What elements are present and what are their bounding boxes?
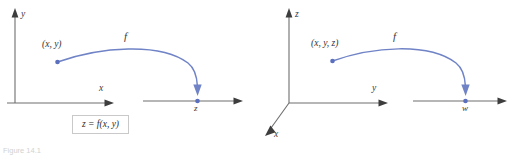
three-variable-diagram-graphics: [260, 0, 521, 156]
w-axis-label: w: [462, 104, 468, 113]
figure-number-label: Figure 14.1: [3, 147, 41, 155]
caption-two-variable: z = f(x, y): [72, 115, 129, 134]
x-axis-label: x: [99, 84, 103, 94]
function-label: f: [124, 31, 127, 42]
function-label: f: [393, 31, 396, 42]
panel-three-variable: z y x (x, y, z) f w w = f(x, y, z): [260, 0, 521, 156]
w-number-line: [413, 98, 507, 105]
y-axis-label: y: [21, 10, 25, 20]
z-axis-label: z: [194, 104, 198, 113]
z-axis-label: z: [295, 10, 299, 20]
y-axis: [12, 8, 19, 103]
mapping-arrow: [333, 49, 470, 96]
domain-point-dot: [330, 59, 335, 64]
domain-point-dot: [55, 60, 60, 65]
two-variable-diagram-graphics: [0, 0, 260, 156]
domain-point-label: (x, y): [42, 40, 62, 50]
mapping-arrow: [58, 49, 202, 96]
figure-root: y x (x, y) f z z = f(x, y): [0, 0, 521, 156]
domain-point-label: (x, y, z): [311, 39, 338, 49]
z-number-line: [143, 98, 243, 105]
z-axis: [286, 8, 293, 103]
x-axis-label: x: [274, 130, 278, 140]
y-axis: [289, 100, 388, 107]
panel-two-variable: y x (x, y) f z z = f(x, y): [0, 0, 260, 156]
y-axis-label: y: [372, 84, 376, 94]
x-axis: [7, 100, 114, 107]
